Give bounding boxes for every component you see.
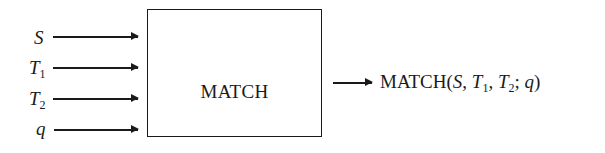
input-label-q: q <box>36 119 46 138</box>
close-paren: ) <box>534 71 540 92</box>
input-symbol: T <box>29 88 40 109</box>
box-label: MATCH <box>148 82 321 101</box>
input-symbol: T <box>29 57 40 78</box>
input-label-t2: T2 <box>29 89 46 111</box>
input-subscript: 1 <box>40 67 46 81</box>
output-arg: T <box>472 71 483 92</box>
input-arrow-t2 <box>53 98 138 100</box>
input-symbol: q <box>36 118 46 139</box>
input-label-t1: T1 <box>29 58 46 80</box>
input-symbol: S <box>34 27 44 48</box>
match-process-box: MATCH <box>147 9 322 137</box>
input-arrow-q <box>54 129 138 131</box>
input-arrow-s <box>53 36 138 38</box>
input-subscript: 2 <box>40 98 46 112</box>
output-arg: S <box>453 71 463 92</box>
output-arg: T <box>498 71 509 92</box>
input-label-s: S <box>34 28 44 47</box>
input-arrow-t1 <box>53 67 138 69</box>
arg-separator: , <box>462 71 472 92</box>
output-arg: q <box>525 71 535 92</box>
output-expression: MATCH(S, T1, T2; q) <box>380 72 540 94</box>
arg-separator: , <box>488 71 498 92</box>
output-function-name: MATCH <box>380 71 447 92</box>
output-arrow <box>333 82 372 84</box>
arg-separator: ; <box>515 71 525 92</box>
